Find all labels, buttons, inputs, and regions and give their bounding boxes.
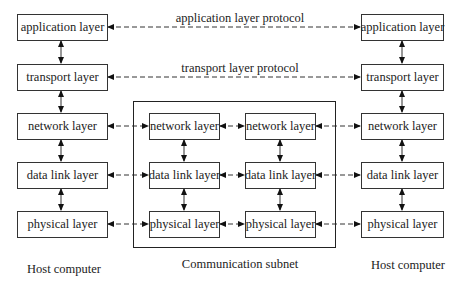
left-application-layer: application layer [17, 14, 108, 41]
subnet-a-physical-layer: physical layer [149, 211, 220, 238]
left-transport-layer: transport layer [17, 64, 108, 91]
subnet-a-network-layer: network layer [149, 113, 220, 140]
left-network-layer: network layer [17, 113, 108, 140]
subnet-caption: Communication subnet [175, 257, 305, 272]
subnet-a-data-link-layer: data link layer [149, 162, 220, 189]
transport-protocol-label: transport layer protocol [150, 61, 330, 76]
right-data-link-layer: data link layer [361, 162, 444, 189]
right-transport-layer: transport layer [361, 64, 444, 91]
right-physical-layer: physical layer [361, 211, 444, 238]
right-network-layer: network layer [361, 113, 444, 140]
subnet-b-physical-layer: physical layer [245, 211, 316, 238]
left-physical-layer: physical layer [17, 211, 108, 238]
left-host-caption: Host computer [14, 262, 114, 277]
right-host-caption: Host computer [358, 258, 458, 273]
subnet-b-network-layer: network layer [245, 113, 316, 140]
right-application-layer: application layer [361, 14, 444, 41]
application-protocol-label: application layer protocol [150, 11, 330, 26]
left-data-link-layer: data link layer [17, 162, 108, 189]
subnet-b-data-link-layer: data link layer [245, 162, 316, 189]
